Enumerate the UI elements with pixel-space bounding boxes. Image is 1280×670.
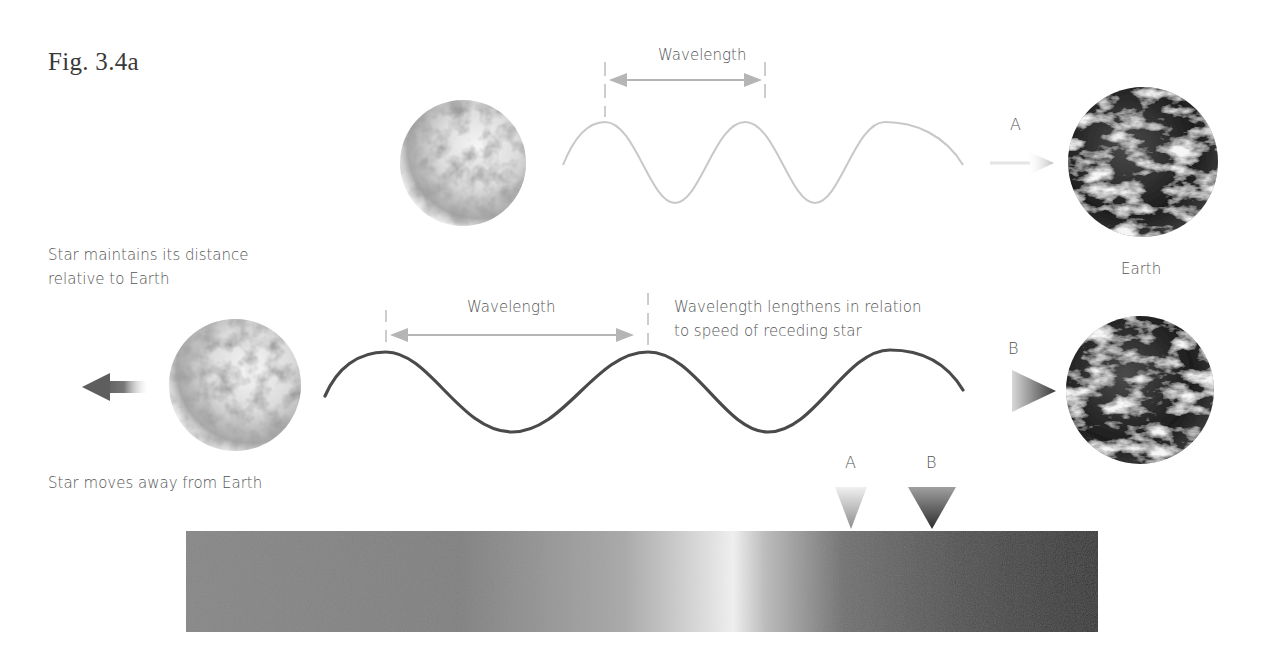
wavelength-note-line2: to speed of receding star xyxy=(674,320,862,342)
spectrum-bar xyxy=(186,531,1098,632)
wavelength-label-bottom: Wavelength xyxy=(467,296,555,318)
star-maintains-label-line2: relative to Earth xyxy=(48,268,169,290)
star-moves-away-label: Star moves away from Earth xyxy=(48,472,262,494)
earth-top-icon xyxy=(1068,87,1218,237)
wavelength-label-top: Wavelength xyxy=(658,44,746,66)
arrow-a-label: A xyxy=(1010,114,1021,136)
redshifted-wave-bottom xyxy=(325,350,963,432)
arrow-b-icon xyxy=(964,370,1056,412)
wavelength-note-line1: Wavelength lengthens in relation xyxy=(674,296,921,318)
marker-b-icon xyxy=(908,487,956,529)
light-wave-top xyxy=(563,122,963,203)
star-bottom-icon xyxy=(169,319,301,451)
spectrum-marker-b-label: B xyxy=(926,452,936,474)
earth-bottom-icon xyxy=(1066,316,1214,464)
earth-label: Earth xyxy=(1121,258,1161,280)
spectrum-marker-a-label: A xyxy=(845,452,856,474)
figure-label: Fig. 3.4a xyxy=(48,48,139,76)
diagram-graphics xyxy=(0,0,1280,670)
arrow-a-icon xyxy=(990,150,1054,176)
star-maintains-label-line1: Star maintains its distance xyxy=(48,244,249,266)
arrow-b-label: B xyxy=(1008,338,1018,360)
arrow-left-icon xyxy=(82,373,148,401)
marker-a-icon xyxy=(835,487,867,529)
doppler-redshift-diagram: Fig. 3.4a Wavelength A Earth Star mainta… xyxy=(0,0,1280,670)
spectrum-markers xyxy=(835,487,956,529)
wavelength-dimension-top xyxy=(605,62,765,117)
star-top-icon xyxy=(400,100,526,226)
